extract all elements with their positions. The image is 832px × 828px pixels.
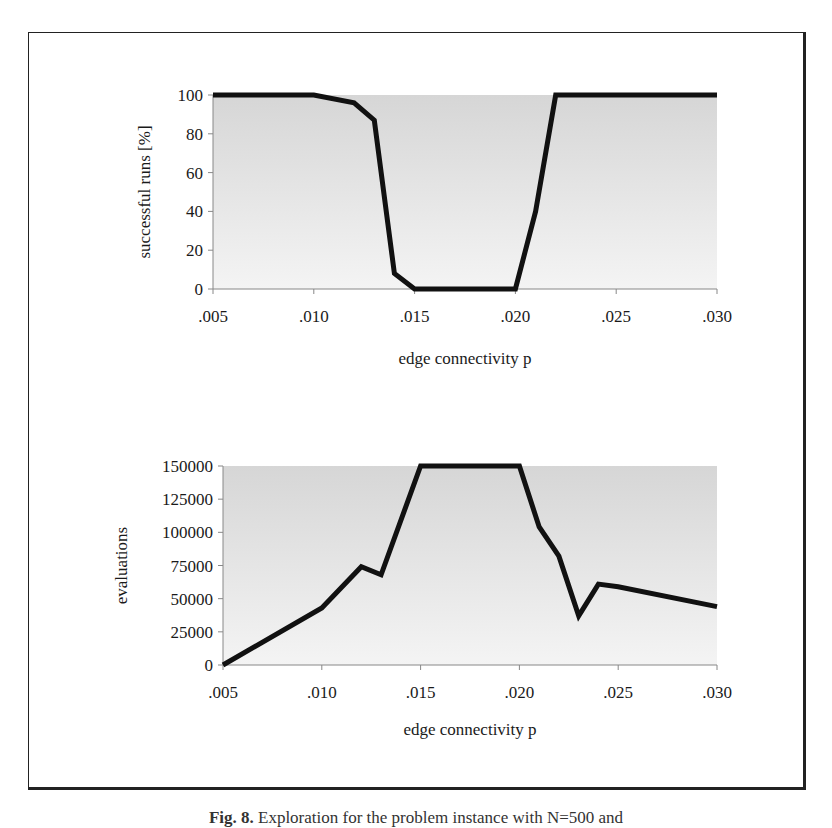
- x-tick-label: .025: [603, 683, 633, 702]
- x-tick-label: .030: [702, 307, 732, 326]
- x-tick-label: .005: [208, 683, 238, 702]
- y-tick-label: 75000: [171, 557, 214, 576]
- x-tick-label: .010: [299, 307, 329, 326]
- x-tick-label: .020: [505, 683, 535, 702]
- caption-label: Fig. 8.: [209, 808, 254, 827]
- y-tick-label: 0: [195, 280, 204, 299]
- success-rate-chart: 020406080100.005.010.015.020.025.030edge…: [135, 86, 732, 368]
- x-tick-label: .020: [501, 307, 531, 326]
- y-tick-label: 125000: [162, 490, 213, 509]
- y-tick-label: 0: [205, 656, 214, 675]
- y-tick-label: 50000: [171, 590, 214, 609]
- y-axis-label: evaluations: [112, 527, 131, 604]
- y-tick-label: 25000: [171, 623, 214, 642]
- x-tick-label: .025: [601, 307, 631, 326]
- x-tick-label: .015: [400, 307, 430, 326]
- x-axis-label: edge connectivity p: [403, 720, 536, 739]
- x-tick-label: .010: [307, 683, 337, 702]
- x-tick-label: .015: [406, 683, 436, 702]
- evaluations-chart: 0250005000075000100000125000150000.005.0…: [112, 457, 732, 739]
- y-tick-label: 20: [186, 241, 203, 260]
- figure-caption: Fig. 8. Exploration for the problem inst…: [0, 808, 832, 828]
- plot-area: [213, 95, 717, 289]
- y-tick-label: 100: [178, 86, 204, 105]
- y-axis-label: successful runs [%]: [135, 125, 154, 258]
- y-tick-label: 100000: [162, 523, 213, 542]
- x-axis-label: edge connectivity p: [398, 349, 531, 368]
- y-tick-label: 150000: [162, 457, 213, 476]
- x-tick-label: .030: [702, 683, 732, 702]
- y-tick-label: 80: [186, 125, 203, 144]
- plot-area: [223, 466, 717, 665]
- caption-text: Exploration for the problem instance wit…: [258, 808, 623, 827]
- y-tick-label: 40: [186, 202, 203, 221]
- x-tick-label: .005: [198, 307, 228, 326]
- y-tick-label: 60: [186, 164, 203, 183]
